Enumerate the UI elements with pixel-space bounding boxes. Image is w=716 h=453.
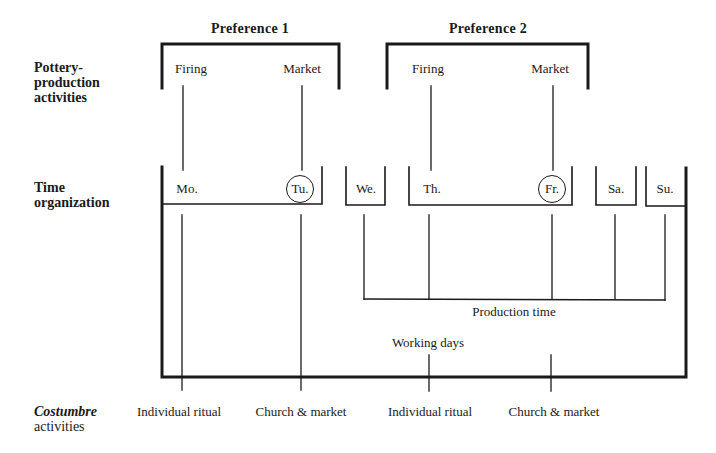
activity-firing-2: Firing — [412, 62, 444, 76]
row-label-line: activities — [34, 90, 124, 105]
day-tu: Tu. — [291, 182, 308, 196]
costumbre-mo: Individual ritual — [137, 405, 221, 419]
preference-2-title: Preference 2 — [449, 22, 527, 36]
day-we: We. — [356, 182, 376, 196]
working-days-label: Working days — [392, 336, 464, 350]
row-label-line: activities — [34, 419, 124, 434]
row-label-line: Pottery- — [34, 60, 124, 75]
row-label-line: organization — [34, 195, 124, 210]
day-su: Su. — [657, 182, 674, 196]
row-label-line: Time — [34, 180, 124, 195]
production-time-label: Production time — [472, 305, 555, 319]
row-label-costumbre: Costumbre activities — [34, 404, 124, 434]
costumbre-th: Individual ritual — [388, 405, 472, 419]
day-fr: Fr. — [545, 182, 559, 196]
row-label-line: Costumbre — [34, 404, 124, 419]
activity-market-1: Market — [283, 62, 321, 76]
costumbre-tu: Church & market — [256, 405, 347, 419]
row-label-line: production — [34, 75, 124, 90]
row-label-pottery: Pottery- production activities — [34, 60, 124, 105]
day-mo: Mo. — [176, 182, 197, 196]
day-sa: Sa. — [608, 182, 624, 196]
activity-firing-1: Firing — [175, 62, 207, 76]
day-th: Th. — [423, 182, 441, 196]
row-label-time: Time organization — [34, 180, 124, 210]
activity-market-2: Market — [531, 62, 569, 76]
costumbre-fr: Church & market — [509, 405, 600, 419]
preference-1-title: Preference 1 — [211, 22, 289, 36]
